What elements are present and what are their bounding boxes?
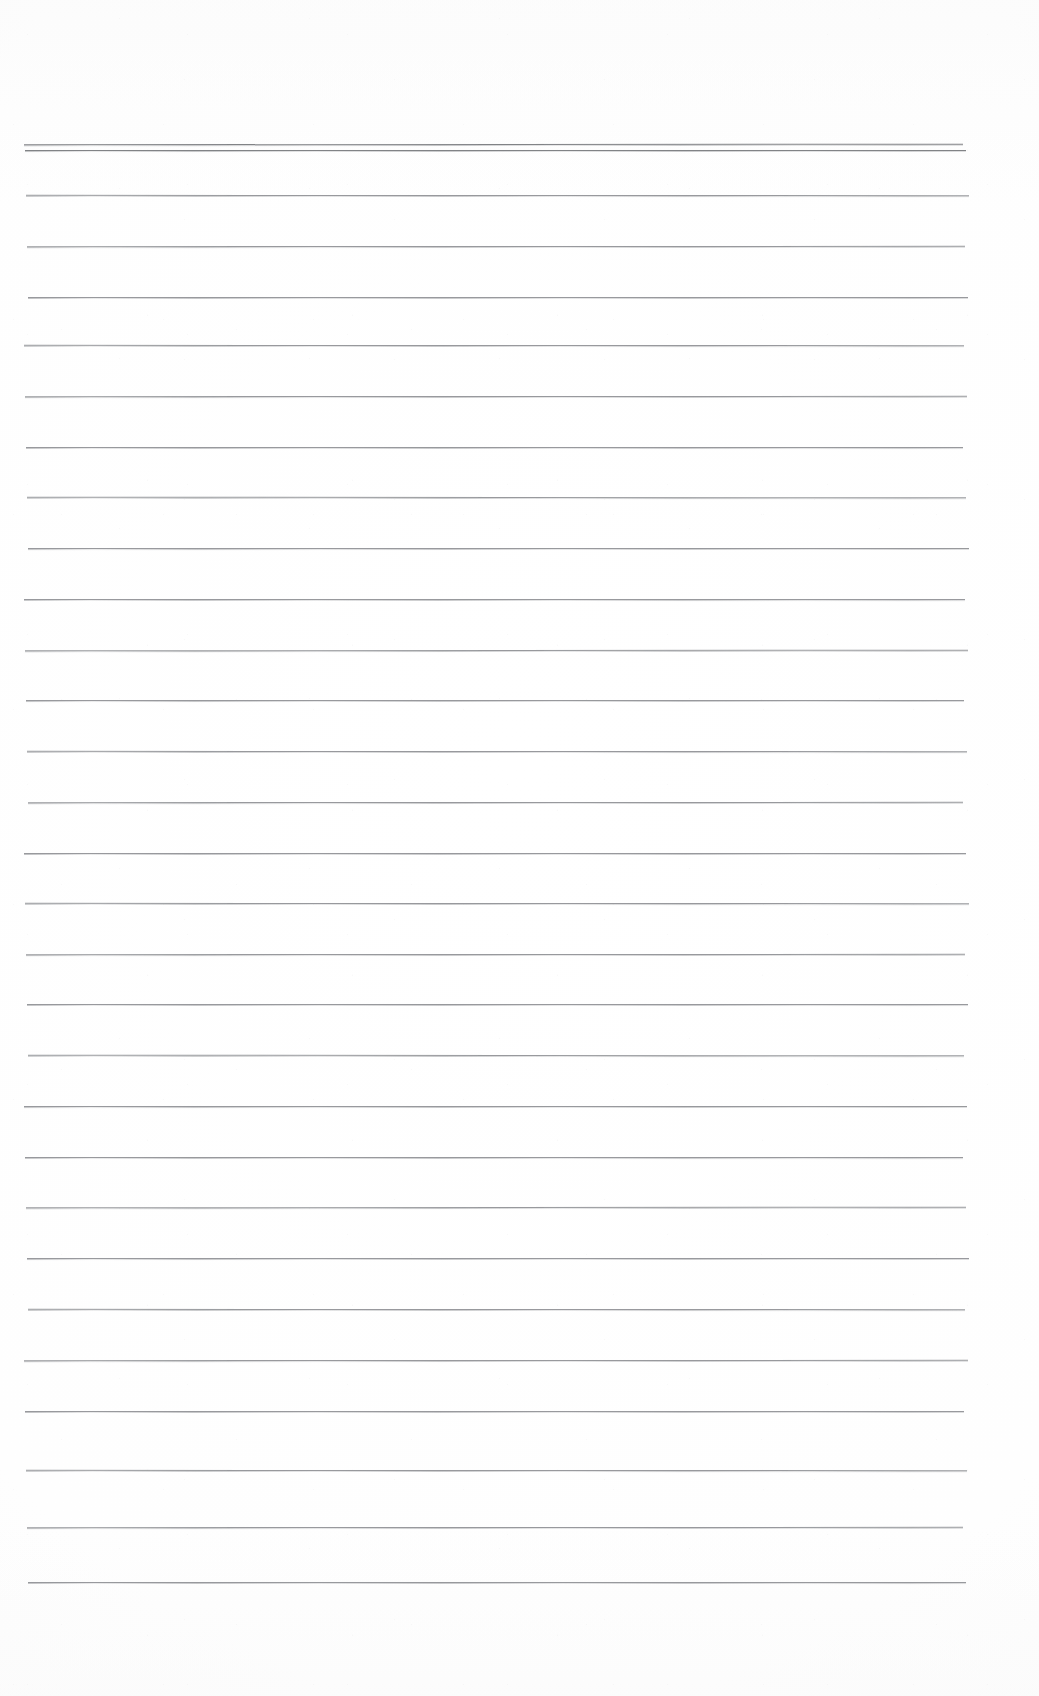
rule-line (24, 1106, 967, 1107)
rule-line (25, 150, 966, 151)
rule-line (28, 1055, 964, 1056)
rule-line (25, 650, 968, 651)
rule-line (26, 447, 963, 448)
rule-line (26, 1470, 967, 1471)
rule-line (24, 345, 964, 346)
rule-line (27, 1258, 969, 1259)
rule-line (27, 497, 966, 498)
rule-line (28, 1582, 966, 1583)
scanned-page (0, 0, 1039, 1696)
rule-line (28, 297, 968, 298)
rule-line (28, 802, 963, 803)
ruled-lines-layer (0, 0, 1039, 1696)
rule-line (25, 396, 967, 397)
rule-line (26, 700, 964, 701)
rule-line (25, 1157, 963, 1158)
rule-line (27, 1527, 963, 1528)
rule-line (27, 246, 965, 247)
rule-line (27, 751, 967, 752)
rule-line (26, 954, 965, 955)
rule-line (24, 144, 963, 145)
rule-line (28, 1309, 965, 1310)
rule-line (27, 1004, 968, 1005)
rule-line (28, 548, 969, 549)
rule-line (24, 599, 965, 600)
rule-line (24, 853, 966, 854)
rule-line (26, 1207, 966, 1208)
rule-line (26, 195, 969, 196)
rule-line (25, 1411, 964, 1412)
rule-line (25, 903, 969, 904)
rule-line (24, 1360, 968, 1361)
